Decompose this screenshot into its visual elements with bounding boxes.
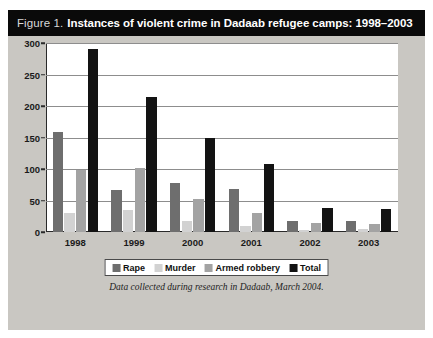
- bar-rape-2000: [170, 183, 181, 232]
- x-axis-tick-label: 2000: [182, 237, 203, 248]
- bar-armed-robbery-1998: [76, 170, 87, 232]
- gridline: [46, 43, 398, 44]
- gridline: [46, 169, 398, 170]
- gridline: [46, 201, 398, 202]
- gridline: [46, 75, 398, 76]
- bar-armed-robbery-2001: [252, 213, 263, 232]
- gridline: [46, 106, 398, 107]
- x-axis-tick-label: 1998: [65, 237, 86, 248]
- y-axis-tick-label: 100: [24, 164, 40, 175]
- legend-item-murder: Murder: [154, 263, 196, 273]
- bar-total-2003: [381, 209, 392, 232]
- chart-legend: RapeMurderArmed robberyTotal: [104, 259, 329, 276]
- bar-armed-robbery-1999: [135, 168, 146, 232]
- bar-total-1998: [88, 49, 99, 232]
- bar-rape-2002: [287, 221, 298, 232]
- x-axis-tick-label: 2003: [358, 237, 379, 248]
- y-axis-tick-mark: [41, 74, 45, 76]
- figure-caption: Data collected during research in Dadaab…: [8, 282, 425, 292]
- bar-armed-robbery-2000: [193, 199, 204, 232]
- y-axis-tick-mark: [41, 137, 45, 139]
- y-axis-tick-label: 250: [24, 69, 40, 80]
- bar-murder-2002: [299, 230, 310, 232]
- x-axis-tick-label: 2002: [299, 237, 320, 248]
- gridline: [46, 138, 398, 139]
- legend-label: Total: [300, 263, 321, 273]
- bar-armed-robbery-2002: [311, 223, 322, 232]
- bar-rape-1999: [111, 190, 122, 232]
- y-axis-tick-label: 0: [35, 227, 40, 238]
- legend-label: Rape: [123, 263, 145, 273]
- bar-murder-2001: [240, 226, 251, 232]
- bar-rape-2003: [346, 221, 357, 232]
- bar-murder-2003: [358, 229, 369, 232]
- y-axis-tick-label: 200: [24, 101, 40, 112]
- bar-rape-1998: [53, 132, 64, 232]
- y-axis-tick-label: 150: [24, 132, 40, 143]
- legend-label: Murder: [165, 263, 196, 273]
- bar-rape-2001: [229, 189, 240, 232]
- bar-total-2000: [205, 138, 216, 233]
- bar-total-2002: [322, 208, 333, 232]
- legend-swatch-icon: [289, 264, 297, 272]
- legend-swatch-icon: [154, 264, 162, 272]
- legend-item-armed-robbery: Armed robbery: [205, 263, 281, 273]
- figure-number-label: Figure 1.: [17, 17, 63, 29]
- legend-label: Armed robbery: [216, 263, 281, 273]
- y-axis-tick-mark: [41, 231, 45, 233]
- x-axis-tick-label: 1999: [123, 237, 144, 248]
- y-axis-tick-mark: [41, 105, 45, 107]
- y-axis-tick-label: 300: [24, 38, 40, 49]
- figure-title-bar: Figure 1. Instances of violent crime in …: [8, 10, 425, 36]
- legend-item-rape: Rape: [112, 263, 145, 273]
- y-axis-tick-mark: [41, 200, 45, 202]
- plot-area: 050100150200250300 199819992000200120022…: [46, 43, 398, 232]
- y-axis-tick-label: 50: [29, 195, 40, 206]
- figure-container: Figure 1. Instances of violent crime in …: [8, 10, 425, 330]
- legend-item-total: Total: [289, 263, 321, 273]
- legend-swatch-icon: [205, 264, 213, 272]
- bar-total-1999: [146, 97, 157, 232]
- y-axis-tick-mark: [41, 42, 45, 44]
- y-axis-tick-mark: [41, 168, 45, 170]
- legend-swatch-icon: [112, 264, 120, 272]
- x-axis-tick-label: 2001: [241, 237, 262, 248]
- bar-murder-2000: [182, 221, 193, 232]
- bar-murder-1999: [123, 210, 134, 232]
- figure-title-text: Instances of violent crime in Dadaab ref…: [67, 17, 412, 29]
- bar-armed-robbery-2003: [369, 224, 380, 232]
- bar-murder-1998: [64, 213, 75, 232]
- bar-total-2001: [264, 164, 275, 232]
